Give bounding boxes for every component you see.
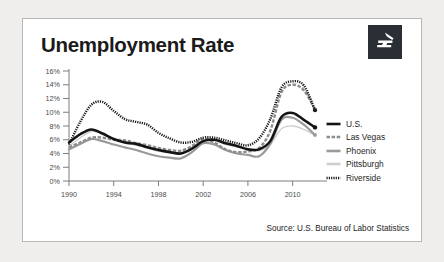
x-axis-tick-label: 2002 xyxy=(195,190,211,199)
y-axis-tick-label: 14% xyxy=(46,80,61,89)
series-endpoint-phoenix xyxy=(313,133,317,137)
chart-card: Unemployment Rate 0%2%4%6%8%10%12%14%16%… xyxy=(22,18,422,242)
chart-legend: U.S.Las VegasPhoenixPittsburghRiverside xyxy=(326,117,422,185)
x-axis-tick-label: 1998 xyxy=(150,190,166,199)
legend-item-riverside[interactable]: Riverside xyxy=(326,171,422,185)
page-title: Unemployment Rate xyxy=(41,33,234,57)
series-endpoint-riverside xyxy=(313,108,317,112)
series-endpoint-us xyxy=(313,125,317,129)
y-axis-tick-label: 12% xyxy=(46,94,61,103)
legend-swatch-pittsburgh xyxy=(326,159,341,169)
x-axis-tick-label: 2010 xyxy=(285,190,301,199)
y-axis-tick-label: 16% xyxy=(46,67,61,76)
y-axis-tick-label: 4% xyxy=(50,149,61,158)
legend-item-us[interactable]: U.S. xyxy=(326,117,422,131)
y-axis-tick-label: 0% xyxy=(50,177,61,186)
x-axis-tick-label: 2006 xyxy=(240,190,256,199)
legend-swatch-phoenix xyxy=(326,146,341,156)
chart-source-note: Source: U.S. Bureau of Labor Statistics xyxy=(267,224,409,233)
x-axis-tick-label: 1994 xyxy=(106,190,122,199)
y-axis-tick-label: 8% xyxy=(50,122,61,131)
legend-label: Riverside xyxy=(346,173,381,183)
legend-swatch-las_vegas xyxy=(326,132,341,142)
legend-label: Pittsburgh xyxy=(346,159,384,169)
legend-swatch-us xyxy=(326,119,341,129)
zillow-logo xyxy=(368,25,402,59)
y-axis-tick-label: 10% xyxy=(46,108,61,117)
y-axis-tick-label: 2% xyxy=(50,163,61,172)
legend-label: Las Vegas xyxy=(346,132,385,142)
y-axis-tick-label: 6% xyxy=(50,135,61,144)
legend-label: Phoenix xyxy=(346,146,376,156)
legend-item-phoenix[interactable]: Phoenix xyxy=(326,144,422,158)
legend-label: U.S. xyxy=(346,119,362,129)
legend-item-las_vegas[interactable]: Las Vegas xyxy=(326,131,422,145)
x-axis-tick-label: 1990 xyxy=(61,190,77,199)
legend-item-pittsburgh[interactable]: Pittsburgh xyxy=(326,158,422,172)
legend-swatch-riverside xyxy=(326,173,341,183)
